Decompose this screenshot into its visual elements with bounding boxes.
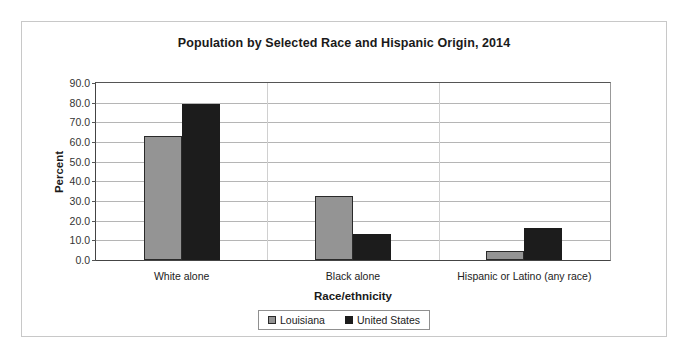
y-axis-tick-label: 90.0 <box>70 77 90 89</box>
bar <box>182 104 220 260</box>
y-axis-tick-mark <box>92 83 96 84</box>
y-axis-tick-label: 20.0 <box>70 215 90 227</box>
legend-item: United States <box>345 314 420 326</box>
legend-swatch-icon <box>345 316 353 324</box>
legend-swatch-icon <box>268 316 276 324</box>
y-axis-label: Percent <box>53 150 65 192</box>
bar <box>524 228 562 260</box>
x-axis-tick-label: Black alone <box>326 270 380 282</box>
y-axis-tick-mark <box>92 201 96 202</box>
bar <box>486 251 524 260</box>
bar <box>144 136 182 260</box>
bar-group <box>144 83 220 260</box>
x-axis-label: Race/ethnicity <box>96 290 610 302</box>
y-axis-tick-label: 10.0 <box>70 234 90 246</box>
y-axis-tick-mark <box>92 260 96 261</box>
bar-group <box>486 83 562 260</box>
chart-figure: Population by Selected Race and Hispanic… <box>21 21 667 337</box>
y-axis-tick-label: 0.0 <box>75 254 90 266</box>
x-axis-tick-label: White alone <box>154 270 209 282</box>
y-axis-tick-label: 50.0 <box>70 156 90 168</box>
y-axis-tick-mark <box>92 162 96 163</box>
y-axis-tick-label: 60.0 <box>70 136 90 148</box>
y-axis-tick-mark <box>92 240 96 241</box>
y-axis-tick-mark <box>92 181 96 182</box>
y-axis-tick-mark <box>92 122 96 123</box>
bar <box>315 196 353 260</box>
y-axis-tick-mark <box>92 142 96 143</box>
x-axis-tick-label: Hispanic or Latino (any race) <box>457 270 591 282</box>
category-separator <box>267 83 268 260</box>
y-axis-tick-label: 80.0 <box>70 97 90 109</box>
y-axis-tick-label: 70.0 <box>70 116 90 128</box>
chart-title: Population by Selected Race and Hispanic… <box>22 36 666 50</box>
bar-group <box>315 83 391 260</box>
chart-legend: LouisianaUnited States <box>258 310 430 330</box>
y-axis-tick-label: 30.0 <box>70 195 90 207</box>
y-axis-tick-mark <box>92 103 96 104</box>
legend-label: Louisiana <box>280 314 325 326</box>
bar <box>353 234 391 260</box>
category-separator <box>439 83 440 260</box>
y-axis-tick-mark <box>92 221 96 222</box>
plot-area: Percent 0.010.020.030.040.050.060.070.08… <box>95 82 611 261</box>
legend-item: Louisiana <box>268 314 325 326</box>
legend-label: United States <box>357 314 420 326</box>
y-axis-tick-label: 40.0 <box>70 175 90 187</box>
